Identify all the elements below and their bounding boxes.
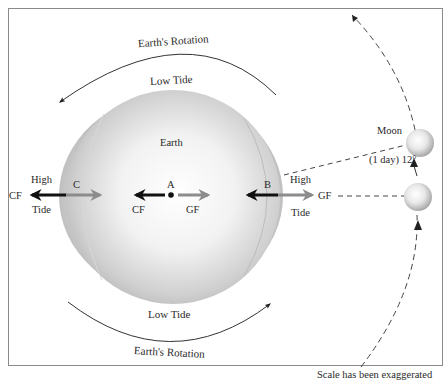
low-tide-label-top: Low Tide [150,73,193,87]
cf-label-center: CF [132,204,145,215]
high-tide-right-line2: Tide [291,207,310,218]
point-c-label: C [73,179,80,190]
moon-label: Moon [377,125,403,136]
high-tide-left-line1: High [31,174,53,185]
high-tide-right-line1: High [290,174,312,185]
point-a-dot [168,192,174,198]
gf-label-right: GF [318,190,332,201]
moon-orbit-arrowhead-mid [414,220,422,230]
cf-label-left-outer: CF [9,190,22,201]
tide-diagram: Earth's Rotation Low Tide Earth C A B Hi… [0,0,448,381]
rotation-label-bottom: Earth's Rotation [134,344,206,360]
low-tide-label-bottom: Low Tide [148,308,191,320]
point-b-label: B [264,179,271,190]
moon-motion-label: (1 day) 12° [369,154,416,166]
moon-motion-segment [414,166,417,176]
point-a-label: A [167,179,175,190]
moon-after-one-day [406,129,434,157]
earth-label: Earth [160,137,183,148]
rotation-label-top: Earth's Rotation [138,32,210,49]
high-tide-left-line2: Tide [32,204,51,215]
scale-footnote: Scale has been exaggerated [317,369,433,380]
moon-current [404,183,432,211]
gf-label-center: GF [186,204,200,215]
